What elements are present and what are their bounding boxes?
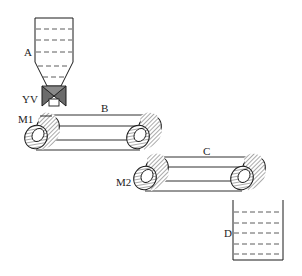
valve-label: YV xyxy=(22,93,38,105)
container-fill-levels xyxy=(234,212,282,254)
conveyor-c-label: C xyxy=(203,145,210,157)
conveyor-c: C M2 xyxy=(116,145,270,194)
motor-m1-label: M1 xyxy=(18,113,33,125)
roller-c-right xyxy=(226,152,270,194)
hopper-label: A xyxy=(24,46,32,58)
roller-m2 xyxy=(129,152,173,194)
conveyor-b-label: B xyxy=(101,102,108,114)
motor-m2-label: M2 xyxy=(116,176,131,188)
container-d: D xyxy=(224,200,283,260)
container-label: D xyxy=(224,227,232,239)
conveyor-b: B M1 xyxy=(18,102,166,153)
valve-yv: YV xyxy=(22,86,66,106)
hopper-a: A xyxy=(24,18,73,86)
roller-b-right xyxy=(122,111,166,153)
process-diagram: A YV xyxy=(0,0,302,276)
